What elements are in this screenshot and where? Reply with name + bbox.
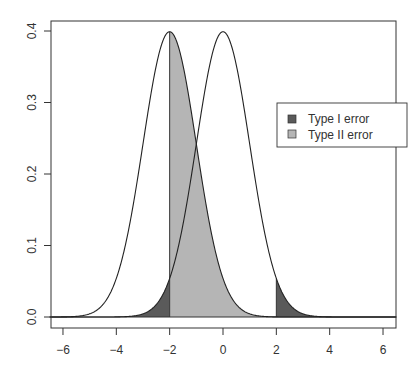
legend-label-type1: Type I error <box>308 112 369 126</box>
null-distribution-curve <box>50 32 397 317</box>
plot-area <box>50 32 397 317</box>
y-tick-label: 0.2 <box>25 165 39 182</box>
y-tick-label: 0.3 <box>25 94 39 111</box>
type2-error-region <box>170 32 277 317</box>
x-tick-label: −6 <box>56 343 70 357</box>
legend-swatch-type1 <box>288 115 296 123</box>
y-tick-label: 0.1 <box>25 237 39 254</box>
chart-container: −6−4−20246 0.00.10.20.30.4 Type I error … <box>0 0 417 375</box>
type1-error-region-left <box>50 278 170 317</box>
x-tick-label: −2 <box>163 343 177 357</box>
legend: Type I error Type II error <box>277 103 407 147</box>
alternative-distribution-curve <box>50 32 397 317</box>
x-tick-label: 4 <box>326 343 333 357</box>
x-tick-label: 2 <box>273 343 280 357</box>
legend-label-type2: Type II error <box>308 128 373 142</box>
x-tick-label: −4 <box>109 343 123 357</box>
legend-swatch-type2 <box>288 130 296 138</box>
x-axis: −6−4−20246 <box>56 328 387 357</box>
y-tick-label: 0.0 <box>25 308 39 325</box>
x-tick-label: 0 <box>220 343 227 357</box>
y-tick-label: 0.4 <box>25 22 39 39</box>
x-tick-label: 6 <box>380 343 387 357</box>
type1-error-region-right <box>276 278 396 317</box>
y-axis: 0.00.10.20.30.4 <box>25 22 51 325</box>
